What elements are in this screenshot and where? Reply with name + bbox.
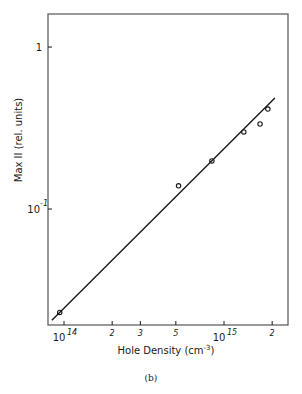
y-axis-title: Max II (rel. units) [13, 98, 24, 183]
x-axis-title: Hole Density (cm-3) [118, 344, 215, 356]
x-tick-exponent: 14 [67, 328, 77, 337]
axis-ticks: 101423510152110-1 [27, 42, 274, 343]
x-axis-title-end: ) [211, 345, 215, 356]
x-tick-label: 5 [173, 329, 178, 338]
figure-caption: (b) [145, 373, 158, 383]
plot-frame-border [48, 14, 288, 325]
x-tick-label: 10 [53, 332, 66, 343]
y-tick-label: 10 [27, 204, 40, 215]
y-tick-exponent: -1 [40, 199, 48, 208]
x-tick-label: 3 [138, 329, 143, 338]
fit-line [52, 98, 275, 320]
x-axis-title-main: Hole Density (cm [118, 345, 204, 356]
y-tick-label: 1 [36, 42, 42, 53]
data-series [52, 98, 275, 320]
data-point-marker [258, 122, 262, 126]
plot-frame [48, 14, 288, 325]
data-point-marker [176, 184, 180, 188]
x-tick-label: 10 [213, 332, 226, 343]
x-tick-exponent: 15 [227, 328, 237, 337]
x-tick-label: 2 [110, 329, 115, 338]
x-tick-label: 2 [270, 329, 275, 338]
chart-figure: 101423510152110-1 Max II (rel. units) Ho… [0, 0, 302, 394]
x-axis-title-exponent: -3 [204, 344, 211, 352]
